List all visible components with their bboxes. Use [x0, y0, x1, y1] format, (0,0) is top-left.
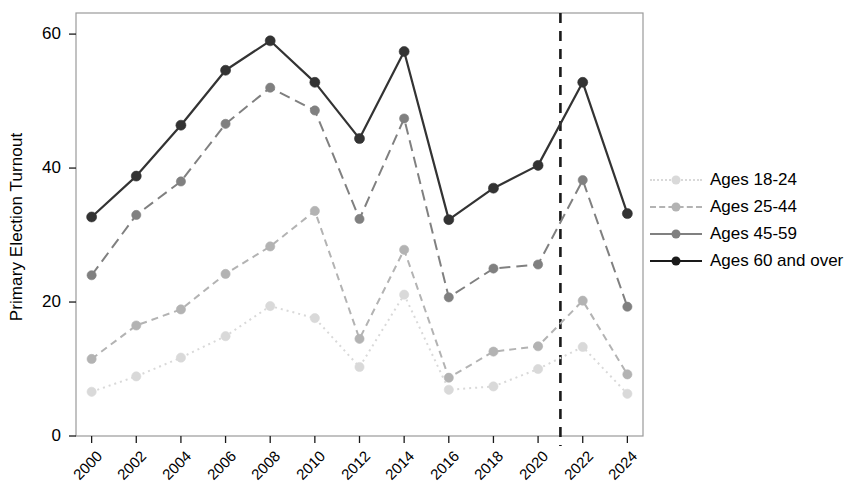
legend-item-ages-25-44: Ages 25-44: [650, 193, 865, 220]
data-point-marker: [265, 36, 275, 46]
data-point-marker: [87, 212, 97, 222]
data-point-marker: [400, 114, 409, 123]
data-point-marker: [176, 177, 185, 186]
data-point-marker: [310, 314, 319, 323]
data-point-marker: [310, 77, 320, 87]
data-point-marker: [400, 290, 409, 299]
plot-frame: [76, 13, 643, 436]
data-point-marker: [132, 372, 141, 381]
data-point-marker: [623, 370, 632, 379]
legend-label-ages-45-59: Ages 45-59: [702, 225, 797, 242]
data-point-marker: [578, 342, 587, 351]
legend-item-ages-18-24: Ages 18-24: [650, 166, 865, 193]
series-line: [92, 295, 628, 394]
data-point-marker: [533, 260, 542, 269]
data-point-marker: [87, 271, 96, 280]
data-point-marker: [578, 296, 587, 305]
data-point-marker: [444, 385, 453, 394]
legend-swatch-ages-25-44: [650, 197, 702, 217]
series-ages-60-and-over: [87, 36, 633, 225]
data-point-marker: [176, 120, 186, 130]
series-line: [92, 211, 628, 378]
data-point-marker: [489, 264, 498, 273]
data-point-marker: [132, 210, 141, 219]
data-point-marker: [488, 183, 498, 193]
data-point-marker: [355, 334, 364, 343]
data-point-marker: [623, 302, 632, 311]
data-point-marker: [355, 214, 364, 223]
series-line: [92, 88, 628, 307]
legend-swatch-ages-18-24: [650, 170, 702, 190]
data-point-marker: [266, 83, 275, 92]
chart-figure: Primary Election Turnout 0204060 2000200…: [0, 0, 865, 494]
legend-label-ages-18-24: Ages 18-24: [702, 171, 797, 188]
series-ages-25-44: [87, 206, 632, 382]
data-point-marker: [399, 47, 409, 57]
data-point-marker: [489, 382, 498, 391]
chart-legend: Ages 18-24 Ages 25-44 Ages 45-59 Ages 60…: [650, 166, 865, 274]
data-point-marker: [400, 245, 409, 254]
data-point-marker: [87, 387, 96, 396]
data-point-marker: [533, 364, 542, 373]
legend-label-ages-60-and-over: Ages 60 and over: [702, 252, 843, 269]
data-point-marker: [221, 269, 230, 278]
data-point-marker: [444, 293, 453, 302]
data-point-marker: [132, 321, 141, 330]
data-point-marker: [578, 77, 588, 87]
legend-swatch-ages-45-59: [650, 224, 702, 244]
data-point-marker: [533, 342, 542, 351]
data-point-marker: [176, 353, 185, 362]
data-point-marker: [533, 160, 543, 170]
data-point-marker: [87, 354, 96, 363]
data-point-marker: [176, 305, 185, 314]
data-point-marker: [131, 171, 141, 181]
legend-label-ages-25-44: Ages 25-44: [702, 198, 797, 215]
series-ages-45-59: [87, 83, 632, 311]
data-point-marker: [355, 362, 364, 371]
data-point-marker: [444, 373, 453, 382]
data-point-marker: [578, 176, 587, 185]
series-line: [92, 41, 628, 220]
data-point-marker: [444, 215, 454, 225]
data-point-marker: [221, 332, 230, 341]
series-ages-18-24: [87, 290, 632, 398]
data-point-marker: [310, 106, 319, 115]
data-point-marker: [355, 134, 365, 144]
data-point-marker: [266, 242, 275, 251]
data-point-marker: [310, 206, 319, 215]
legend-swatch-ages-60-and-over: [650, 251, 702, 271]
legend-item-ages-45-59: Ages 45-59: [650, 220, 865, 247]
data-point-marker: [221, 119, 230, 128]
data-point-marker: [221, 65, 231, 75]
data-point-marker: [623, 389, 632, 398]
data-point-marker: [622, 209, 632, 219]
data-point-marker: [489, 347, 498, 356]
data-point-marker: [266, 301, 275, 310]
legend-item-ages-60-and-over: Ages 60 and over: [650, 247, 865, 274]
